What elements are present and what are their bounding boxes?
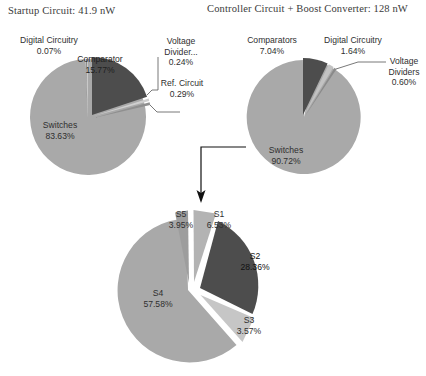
pie1-digital-name: Digital Circuitry [6, 35, 92, 46]
pie2-comparators-value: 7.04% [236, 46, 308, 57]
pie2-digital-value: 1.64% [312, 46, 394, 57]
startup-circuit-title: Startup Circuit: 41.9 nW [8, 5, 115, 16]
pie1-comparator-value: 15.77% [70, 65, 130, 76]
pie3-s4-name: S4 [130, 288, 186, 299]
pie1-label-digital-circuitry: Digital Circuitry 0.07% [6, 35, 92, 56]
pie3-s4-value: 57.58% [130, 299, 186, 310]
pie1-divider-name2: Divider... [152, 47, 210, 58]
pie2-digital-name: Digital Circuitry [312, 35, 394, 46]
pie1-label-voltage-divider: Voltage Divider... 0.24% [152, 36, 210, 68]
figure-canvas: Startup Circuit: 41.9 nW Controller Circ… [0, 0, 426, 376]
pie2-comparators-name: Comparators [236, 35, 308, 46]
pie3-s5-name: S5 [160, 209, 202, 220]
pie1-ref-name: Ref. Circuit [146, 78, 218, 89]
controller-circuit-title: Controller Circuit + Boost Converter: 12… [207, 3, 408, 14]
pie3-s3-name: S3 [225, 315, 273, 326]
pie2-dividers-name: Voltage [378, 56, 426, 67]
pie3-s2-name: S2 [228, 251, 282, 262]
pie2-label-digital-circuitry: Digital Circuitry 1.64% [312, 35, 394, 56]
pie3-label-s3: S3 3.57% [225, 315, 273, 336]
pie2-dividers-value: 0.60% [378, 77, 426, 88]
pie3-label-s1: S1 6.53% [199, 209, 239, 230]
pie2-label-voltage-dividers: Voltage Dividers 0.60% [378, 56, 426, 88]
pie3-label-s2: S2 28.36% [228, 251, 282, 272]
pie3-s1-value: 6.53% [199, 220, 239, 231]
pie1-label-ref-circuit: Ref. Circuit 0.29% [146, 78, 218, 99]
pie1-label-switches: Switches 83.63% [25, 120, 95, 141]
pie3-s3-value: 3.57% [225, 326, 273, 337]
pie3-label-s4: S4 57.58% [130, 288, 186, 309]
pie3-s1-name: S1 [199, 209, 239, 220]
pie3-s2-value: 28.36% [228, 262, 282, 273]
pie1-ref-value: 0.29% [146, 89, 218, 100]
pie3-label-s5: S5 3.95% [160, 209, 202, 230]
pie1-switches-name: Switches [25, 120, 95, 131]
pie1-divider-value: 0.24% [152, 57, 210, 68]
pie1-comparator-name: Comparator [70, 54, 130, 65]
pie1-label-comparator: Comparator 15.77% [70, 54, 130, 75]
pie2-dividers-name2: Dividers [378, 67, 426, 78]
pie1-divider-name: Voltage [152, 36, 210, 47]
pie3-s5-value: 3.95% [160, 220, 202, 231]
pie2-label-comparators: Comparators 7.04% [236, 35, 308, 56]
pie1-switches-value: 83.63% [25, 131, 95, 142]
